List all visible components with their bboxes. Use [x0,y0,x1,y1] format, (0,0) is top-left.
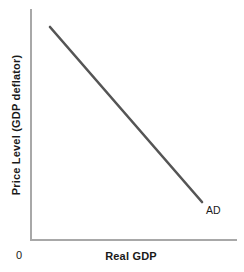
chart-figure: AD 0 Real GDP Price Level (GDP deflator) [0,0,244,272]
chart-canvas: AD 0 Real GDP Price Level (GDP deflator) [0,0,244,272]
origin-label: 0 [16,249,22,261]
y-axis-label: Price Level (GDP deflator) [10,55,22,196]
x-axis-label: Real GDP [105,250,157,262]
aggregate-demand-curve [50,27,202,202]
curve-label-ad: AD [206,204,221,216]
